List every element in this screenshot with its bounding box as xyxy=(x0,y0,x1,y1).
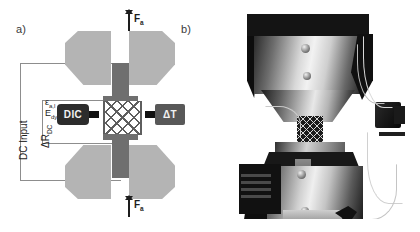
grip-bottom-right xyxy=(129,145,175,199)
panel-b-photograph xyxy=(239,14,405,219)
thermal-sensor-arm xyxy=(394,106,405,124)
dc-input-label: DC Input xyxy=(18,121,29,160)
grip-top-right xyxy=(129,31,175,85)
black-fixture-block xyxy=(239,164,281,214)
dic-instrument-box: DIC xyxy=(57,104,89,125)
dic-connector-lead xyxy=(88,111,99,118)
panel-a-schematic: a) DC Input ΔRDC εa,l Edyn DIC ΔT xyxy=(0,0,210,232)
fixture-fin xyxy=(241,195,271,198)
screw-icon xyxy=(297,170,306,179)
lattice-specimen xyxy=(103,96,138,140)
fixture-fin xyxy=(241,174,271,177)
fixture-fin xyxy=(241,181,271,184)
cable xyxy=(351,164,397,219)
figure-root: a) DC Input ΔRDC εa,l Edyn DIC ΔT xyxy=(0,0,420,232)
loading-rod-bottom xyxy=(112,138,129,178)
delta-r-dc-label: ΔRDC xyxy=(40,125,53,148)
force-label-bottom: Fa xyxy=(134,199,144,212)
arrowhead-down-icon xyxy=(125,196,133,201)
screw-icon xyxy=(303,72,311,80)
panel-label-b: b) xyxy=(181,23,191,35)
fixture-fin xyxy=(241,188,271,191)
delta-t-instrument-box: ΔT xyxy=(155,104,185,125)
screw-icon xyxy=(301,44,310,53)
loading-rod-top xyxy=(112,63,129,100)
arrowhead-down-icon xyxy=(125,10,133,15)
specimen-cap-bottom xyxy=(103,134,138,140)
force-label-top: Fa xyxy=(134,13,144,26)
specimen-lattice-pattern xyxy=(103,101,142,135)
panel-label-a: a) xyxy=(16,23,26,35)
